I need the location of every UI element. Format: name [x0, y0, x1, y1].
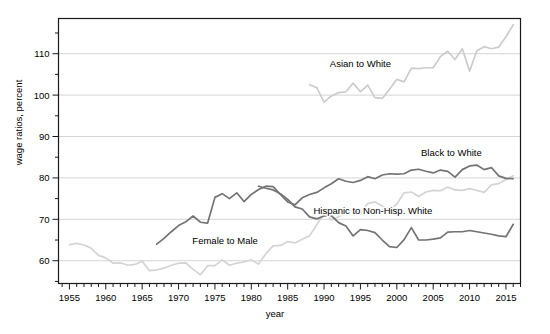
xtick-label-1995: 1995	[350, 292, 371, 303]
xtick-label-1955: 1955	[59, 292, 80, 303]
ytick-label-90: 90	[39, 131, 50, 142]
series-label-3: Hispanic to Non-Hisp. White	[313, 205, 432, 216]
series-line-0	[69, 176, 513, 275]
x-axis-title: year	[0, 308, 550, 319]
xtick-label-2015: 2015	[495, 292, 516, 303]
xtick-label-2010: 2010	[459, 292, 480, 303]
ytick-label-110: 110	[34, 48, 49, 59]
ytick-label-80: 80	[39, 172, 50, 183]
xtick-label-1990: 1990	[313, 292, 334, 303]
ytick-label-70: 70	[39, 214, 50, 225]
xtick-label-2000: 2000	[386, 292, 407, 303]
ytick-label-60: 60	[39, 255, 50, 266]
y-axis-title: wage ratios, percent	[13, 75, 24, 171]
xtick-label-1965: 1965	[132, 292, 153, 303]
series-label-0: Female to Male	[192, 235, 257, 246]
xtick-label-1975: 1975	[204, 292, 225, 303]
ytick-label-100: 100	[34, 90, 50, 101]
xtick-label-1970: 1970	[168, 292, 189, 303]
series-label-1: Black to White	[421, 147, 482, 158]
xtick-label-1985: 1985	[277, 292, 298, 303]
chart-plot-area: 1955196019651970197519801985199019952000…	[0, 0, 550, 334]
xtick-label-1960: 1960	[95, 292, 116, 303]
series-label-2: Asian to White	[330, 58, 391, 69]
series-line-3	[259, 186, 514, 247]
wage-ratios-chart: 1955196019651970197519801985199019952000…	[0, 0, 550, 334]
xtick-label-1980: 1980	[241, 292, 262, 303]
xtick-label-2005: 2005	[423, 292, 444, 303]
